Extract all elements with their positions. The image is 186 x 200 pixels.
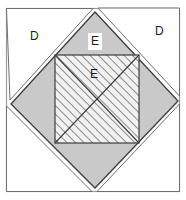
label-e-inner: E (90, 68, 98, 80)
label-d-left: D (30, 30, 39, 42)
label-e-upper: E (88, 33, 102, 50)
geometric-figure: D D E E (0, 0, 186, 200)
label-d-right: D (155, 25, 164, 37)
